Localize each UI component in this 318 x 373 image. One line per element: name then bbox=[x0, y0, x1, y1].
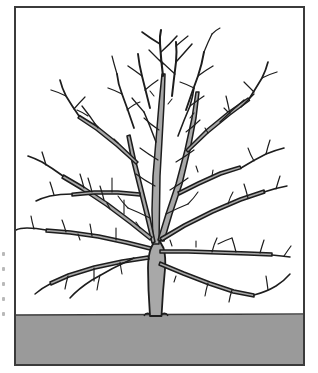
page-edge-marks bbox=[2, 252, 10, 322]
figure-root bbox=[0, 0, 318, 373]
ground-band bbox=[15, 314, 304, 365]
tree-illustration bbox=[0, 0, 318, 373]
